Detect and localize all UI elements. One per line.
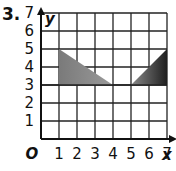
- coordinate-grid: 12345671234567Oxy: [0, 0, 176, 171]
- y-axis-label: y: [45, 10, 56, 28]
- x-tick-label: 6: [144, 145, 154, 163]
- x-tick-label: 3: [90, 145, 100, 163]
- origin-label: O: [26, 145, 39, 163]
- y-tick-label: 1: [24, 112, 34, 130]
- y-tick-label: 5: [24, 40, 34, 58]
- x-axis-arrow-icon: [169, 135, 176, 143]
- y-tick-label: 6: [24, 22, 34, 40]
- x-tick-label: 5: [126, 145, 136, 163]
- x-tick-label: 1: [54, 145, 64, 163]
- y-tick-label: 7: [24, 4, 34, 22]
- x-tick-label: 2: [72, 145, 82, 163]
- y-tick-label: 4: [24, 58, 34, 76]
- x-tick-label: 4: [108, 145, 118, 163]
- x-axis-label: x: [161, 146, 173, 164]
- y-tick-label: 3: [24, 76, 34, 94]
- y-tick-label: 2: [24, 94, 34, 112]
- y-axis-arrow-icon: [37, 7, 45, 15]
